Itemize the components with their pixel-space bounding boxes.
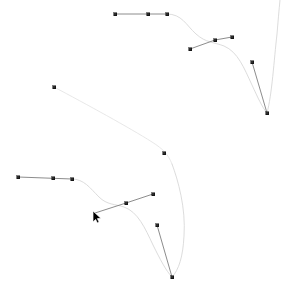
anchor-lower-cluster[interactable] bbox=[125, 202, 128, 205]
handle-right-descending-segment[interactable] bbox=[252, 62, 267, 113]
anchor-bottom-end[interactable] bbox=[171, 276, 174, 279]
anchor-top-left-start[interactable] bbox=[114, 13, 117, 16]
anchor-lower-left-mid[interactable] bbox=[52, 177, 55, 180]
anchor-lower-left-start[interactable] bbox=[17, 176, 20, 179]
handle-upper-cluster-right-segment[interactable] bbox=[215, 37, 232, 40]
handle-lower-cluster-right-segment[interactable] bbox=[126, 194, 153, 203]
lower-left-bend-curve[interactable] bbox=[72, 179, 172, 277]
mouse-pointer-icon bbox=[93, 211, 101, 223]
handle-upper-cluster-left-segment[interactable] bbox=[190, 40, 215, 49]
handle-bottom-descending-segment[interactable] bbox=[157, 225, 172, 277]
lower-right-sweep-curve[interactable] bbox=[172, 164, 184, 277]
long-diagonal-curve[interactable] bbox=[54, 87, 172, 164]
handle-lower-left-segment[interactable] bbox=[18, 177, 72, 179]
anchor-right-lower[interactable] bbox=[266, 112, 269, 115]
anchor-lower-left-end[interactable] bbox=[71, 178, 74, 181]
anchor-upper-handle-tip[interactable] bbox=[189, 48, 192, 51]
anchor-diagonal-start[interactable] bbox=[53, 86, 56, 89]
anchor-upper-cluster[interactable] bbox=[214, 39, 217, 42]
anchor-nodes-layer[interactable] bbox=[17, 13, 269, 279]
vector-editor-canvas[interactable] bbox=[0, 0, 289, 298]
anchor-diagonal-mid[interactable] bbox=[163, 152, 166, 155]
bezier-paths-layer bbox=[54, 0, 280, 277]
upper-right-tail-curve[interactable] bbox=[267, 0, 280, 113]
cursor-arrow-glyph bbox=[93, 211, 101, 223]
anchor-lower-cluster-tip[interactable] bbox=[152, 193, 155, 196]
anchor-upper-cluster-tip[interactable] bbox=[231, 36, 234, 39]
anchor-top-mid[interactable] bbox=[147, 13, 150, 16]
anchor-top-right-end[interactable] bbox=[166, 13, 169, 16]
anchor-bottom-handle-top[interactable] bbox=[156, 224, 159, 227]
path-artwork-surface[interactable] bbox=[0, 0, 289, 298]
control-handles-layer[interactable] bbox=[18, 14, 267, 277]
anchor-right-upper[interactable] bbox=[251, 61, 254, 64]
handle-lower-cluster-left-segment[interactable] bbox=[95, 203, 126, 213]
cursor-layer bbox=[93, 211, 101, 223]
